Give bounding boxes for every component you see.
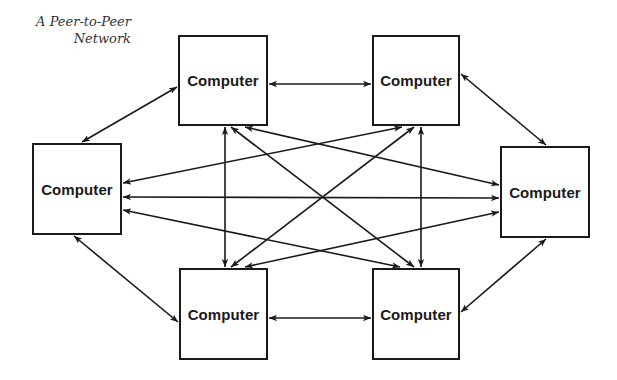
node-label: Computer xyxy=(509,184,581,201)
computer-node-top-left: Computer xyxy=(178,35,268,126)
computer-node-right: Computer xyxy=(500,146,590,238)
edge-top-right-left xyxy=(123,127,402,183)
edge-top-left-right xyxy=(245,127,499,185)
node-label: Computer xyxy=(380,72,452,89)
edge-top-right-right xyxy=(461,74,546,145)
node-label: Computer xyxy=(41,181,113,198)
edge-bottom-left-right xyxy=(245,212,499,267)
edge-left-right xyxy=(123,197,499,198)
computer-node-left: Computer xyxy=(32,143,122,235)
edge-bottom-right-left xyxy=(123,210,400,267)
edge-right-bottom-right xyxy=(461,239,546,312)
computer-node-bottom-right: Computer xyxy=(372,268,460,360)
computer-node-top-right: Computer xyxy=(372,35,460,126)
edge-left-top-left xyxy=(82,87,177,142)
node-label: Computer xyxy=(187,72,259,89)
node-label: Computer xyxy=(188,306,260,323)
node-label: Computer xyxy=(380,306,452,323)
edge-left-bottom-left xyxy=(74,236,178,322)
computer-node-bottom-left: Computer xyxy=(179,268,268,360)
